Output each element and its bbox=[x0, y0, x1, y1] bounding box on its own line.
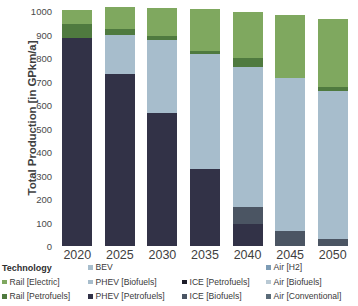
bar-segment bbox=[275, 231, 305, 246]
legend-swatch bbox=[88, 294, 93, 299]
legend-swatch bbox=[2, 280, 7, 285]
bar-segment bbox=[275, 15, 305, 78]
x-tick-2035: 2035 bbox=[182, 248, 228, 262]
bar-2045 bbox=[275, 15, 305, 246]
x-tick-2020: 2020 bbox=[54, 248, 100, 262]
legend-item: Air [H2] bbox=[266, 263, 302, 272]
legend-item-label: BEV bbox=[96, 263, 113, 272]
legend-swatch bbox=[266, 294, 271, 299]
y-tick-100: 100 bbox=[18, 217, 52, 228]
legend-item: Rail [Electric] bbox=[2, 278, 60, 287]
legend-item: ICE [Petrofuels] bbox=[182, 278, 250, 287]
bar-segment bbox=[147, 36, 177, 41]
x-tick-2025: 2025 bbox=[97, 248, 143, 262]
legend-item-label: Air [H2] bbox=[274, 263, 303, 272]
y-tick-400: 400 bbox=[18, 147, 52, 158]
bar-segment bbox=[190, 169, 220, 246]
bar-2025 bbox=[105, 7, 135, 246]
legend-swatch bbox=[182, 280, 187, 285]
bar-segment bbox=[62, 10, 92, 24]
legend-item: Air [Conventional] bbox=[266, 292, 341, 301]
bar-segment bbox=[147, 40, 177, 113]
bar-2030 bbox=[147, 7, 177, 246]
legend-item-label: Air [Biofuels] bbox=[274, 278, 322, 287]
bar-segment bbox=[105, 74, 135, 246]
bar-segment bbox=[318, 239, 348, 246]
legend-item: PHEV [Biofuels] bbox=[88, 278, 157, 287]
bar-segment bbox=[233, 12, 263, 58]
y-tick-500: 500 bbox=[18, 123, 52, 134]
legend-item-label: ICE [Petrofuels] bbox=[190, 278, 250, 287]
bar-segment bbox=[233, 58, 263, 67]
chart-legend: Technology Rail [Electric]Rail [Petrofue… bbox=[0, 263, 358, 306]
legend-title: Technology bbox=[2, 263, 52, 273]
x-tick-2045: 2045 bbox=[267, 248, 313, 262]
stacked-bar-chart: Total Production [in GPkm/a] 01002003004… bbox=[0, 0, 358, 258]
legend-swatch bbox=[88, 280, 93, 285]
legend-item: Rail [Petrofuels] bbox=[2, 292, 70, 301]
bar-2040 bbox=[233, 12, 263, 246]
bar-segment bbox=[318, 87, 348, 91]
plot-area bbox=[56, 11, 354, 246]
bar-segment bbox=[62, 24, 92, 38]
y-tick-800: 800 bbox=[18, 53, 52, 64]
legend-swatch bbox=[2, 294, 7, 299]
legend-item-label: ICE [Biofuels] bbox=[190, 292, 242, 301]
bar-segment bbox=[233, 207, 263, 223]
legend-swatch bbox=[182, 294, 187, 299]
y-axis-tick-labels: 01002003004005006007008009001000 bbox=[18, 0, 52, 258]
bar-segment bbox=[190, 51, 220, 54]
legend-item: ICE [Biofuels] bbox=[182, 292, 242, 301]
legend-item-label: Rail [Petrofuels] bbox=[10, 292, 71, 301]
bar-segment bbox=[318, 91, 348, 239]
legend-item: Air [Biofuels] bbox=[266, 278, 322, 287]
legend-swatch bbox=[266, 280, 271, 285]
bar-segment bbox=[147, 113, 177, 246]
x-tick-2040: 2040 bbox=[225, 248, 271, 262]
legend-item-label: PHEV [Biofuels] bbox=[96, 278, 157, 287]
bar-segment bbox=[190, 54, 220, 169]
legend-item-label: Air [Conventional] bbox=[274, 292, 342, 301]
x-tick-2030: 2030 bbox=[139, 248, 185, 262]
y-tick-900: 900 bbox=[18, 29, 52, 40]
bar-2020 bbox=[62, 10, 92, 246]
legend-grid: Technology Rail [Electric]Rail [Petrofue… bbox=[0, 263, 358, 306]
x-tick-2050: 2050 bbox=[310, 248, 356, 262]
bar-segment bbox=[105, 7, 135, 28]
y-tick-700: 700 bbox=[18, 76, 52, 87]
legend-swatch bbox=[88, 265, 93, 270]
y-tick-200: 200 bbox=[18, 194, 52, 205]
y-tick-0: 0 bbox=[18, 241, 52, 252]
bar-segment bbox=[105, 29, 135, 35]
legend-swatch bbox=[266, 265, 271, 270]
legend-item-label: PHEV [Petrofuels] bbox=[96, 292, 165, 301]
bar-segment bbox=[275, 78, 305, 231]
y-tick-600: 600 bbox=[18, 100, 52, 111]
legend-item: PHEV [Petrofuels] bbox=[88, 292, 165, 301]
bar-segment bbox=[147, 8, 177, 36]
bar-segment bbox=[105, 35, 135, 74]
bar-segment bbox=[233, 67, 263, 207]
legend-item: BEV bbox=[88, 263, 113, 272]
legend-item-label: Rail [Electric] bbox=[10, 278, 60, 287]
bar-segment bbox=[190, 9, 220, 51]
bar-segment bbox=[62, 38, 92, 246]
bar-segment bbox=[318, 19, 348, 87]
y-tick-300: 300 bbox=[18, 170, 52, 181]
bar-2050 bbox=[318, 19, 348, 246]
bar-2035 bbox=[190, 9, 220, 246]
y-tick-1000: 1000 bbox=[18, 6, 52, 17]
bar-segment bbox=[233, 224, 263, 246]
